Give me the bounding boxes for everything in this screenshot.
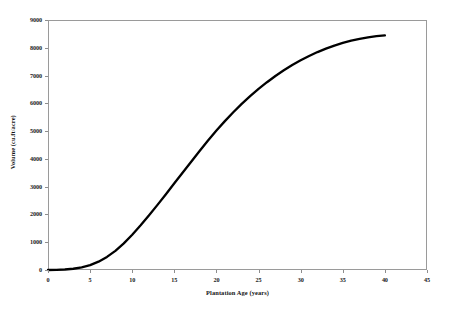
y-tick-label: 1000	[8, 239, 42, 245]
y-tick-label: 2000	[8, 211, 42, 217]
y-tick-mark	[45, 76, 48, 77]
curve-layer	[0, 0, 459, 312]
x-tick-label: 45	[412, 277, 442, 283]
x-tick-label: 10	[117, 277, 147, 283]
x-tick-label: 30	[286, 277, 316, 283]
x-tick-label: 25	[244, 277, 274, 283]
x-tick-mark	[385, 270, 386, 273]
x-tick-mark	[174, 270, 175, 273]
x-tick-label: 20	[201, 277, 231, 283]
x-tick-label: 15	[159, 277, 189, 283]
x-tick-mark	[48, 270, 49, 273]
y-tick-mark	[45, 214, 48, 215]
y-tick-label: 0	[8, 267, 42, 273]
x-tick-mark	[259, 270, 260, 273]
x-tick-mark	[90, 270, 91, 273]
x-tick-label: 5	[75, 277, 105, 283]
volume-growth-curve	[48, 35, 385, 270]
x-tick-mark	[343, 270, 344, 273]
x-tick-mark	[427, 270, 428, 273]
y-tick-mark	[45, 48, 48, 49]
y-tick-mark	[45, 131, 48, 132]
y-tick-mark	[45, 20, 48, 21]
y-tick-mark	[45, 103, 48, 104]
x-tick-mark	[216, 270, 217, 273]
chart-container: 0100020003000400050006000700080009000 05…	[0, 0, 459, 312]
y-tick-mark	[45, 242, 48, 243]
x-axis-title: Plantation Age (years)	[48, 290, 427, 296]
y-tick-label: 7000	[8, 73, 42, 79]
x-tick-mark	[301, 270, 302, 273]
x-tick-label: 0	[33, 277, 63, 283]
y-tick-label: 9000	[8, 17, 42, 23]
y-tick-mark	[45, 187, 48, 188]
x-tick-mark	[132, 270, 133, 273]
y-axis-title: Volume (cu.ft/acre)	[10, 87, 16, 197]
x-tick-label: 35	[328, 277, 358, 283]
x-tick-label: 40	[370, 277, 400, 283]
y-tick-mark	[45, 159, 48, 160]
y-tick-label: 8000	[8, 45, 42, 51]
